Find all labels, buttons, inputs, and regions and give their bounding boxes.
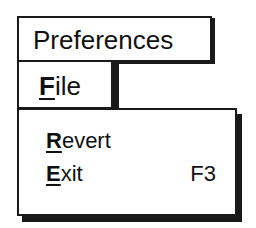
menu-file[interactable]: File [39,71,81,102]
menu-item-exit-label: xit [61,161,83,186]
menubar: File [17,60,113,109]
menu-item-revert-mnemonic: R [46,128,62,153]
menu-file-label: ile [55,71,81,101]
menu-item-exit-mnemonic: E [46,161,61,186]
window-title-bar: Preferences [17,16,212,62]
menu-item-revert-label: evert [62,128,111,153]
menu-item-revert[interactable]: Revert [46,128,216,156]
menu-item-exit[interactable]: Exit F3 [46,161,216,189]
file-dropdown-menu: Revert Exit F3 [17,108,237,216]
menu-file-mnemonic: F [39,71,55,101]
window-title: Preferences [33,25,173,56]
menu-item-exit-accelerator: F3 [190,161,216,187]
